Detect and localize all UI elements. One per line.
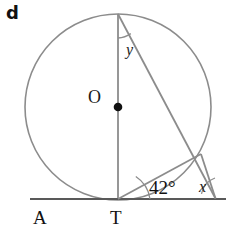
angle-42-label: 42° (149, 178, 176, 197)
geometry-figure: d O A T y x 42° (0, 0, 227, 233)
center-point-dot (114, 103, 123, 112)
center-label: O (88, 88, 101, 106)
point-a-label: A (33, 208, 47, 227)
angle-x-label: x (199, 179, 206, 195)
part-label: d (6, 4, 19, 22)
geometry-canvas (0, 0, 227, 233)
point-t-label: T (110, 208, 122, 227)
angle-y-label: y (126, 42, 133, 58)
